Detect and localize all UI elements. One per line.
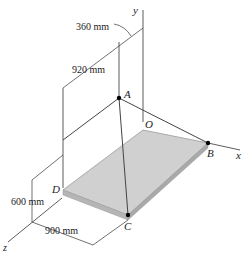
point-d-label: D [51,183,60,195]
point-a-marker [117,96,121,100]
plate [63,130,208,220]
point-o-label: O [145,118,153,130]
point-c-marker [126,213,130,217]
x-axis-label: x [235,149,241,161]
statics-diagram: y x z A O B C D 360 mm 920 mm 600 mm 900… [0,0,249,254]
point-c-label: C [124,220,132,232]
y-axis-label: y [132,4,138,16]
dimension-360-label: 360 mm [76,21,109,32]
dimension-920-label: 920 mm [72,64,105,75]
dimension-900-label: 900 mm [45,225,78,236]
z-axis-label: z [2,242,7,253]
point-a-label: A [123,88,131,100]
point-b-marker [206,141,210,145]
point-b-label: B [207,147,214,159]
dimension-600-label: 600 mm [11,196,44,207]
